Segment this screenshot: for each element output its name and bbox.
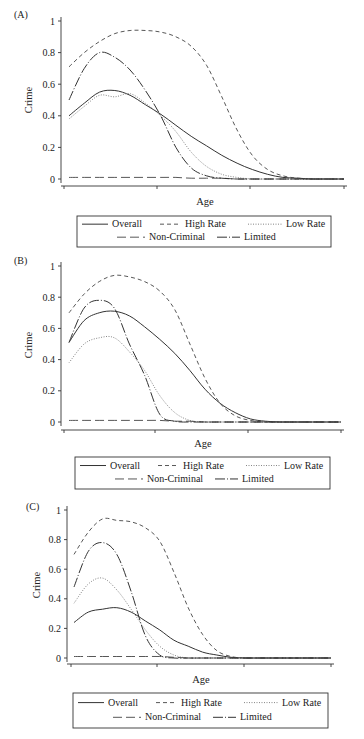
panel-label: (C) [26, 501, 39, 513]
legend-label: Limited [240, 711, 272, 722]
series-low-rate-line [74, 578, 331, 658]
y-tick-label: 0.8 [49, 534, 62, 545]
legend-label: Overall [108, 697, 138, 708]
legend: OverallHigh RateLow RateNon-CriminalLimi… [73, 693, 328, 728]
series-limited-line [74, 543, 331, 659]
legend-label: Non-Criminal [145, 711, 201, 722]
y-tick-label: 0.6 [49, 564, 62, 575]
y-axis-label: Crime [31, 572, 42, 599]
y-tick-label: 1 [56, 505, 61, 516]
y-axis: 00.20.40.60.81 [49, 505, 68, 664]
y-tick-label: 0 [56, 653, 61, 664]
plot-area: 00.20.40.60.81 [49, 505, 335, 668]
x-axis-label: Age [192, 674, 210, 685]
x-axis [67, 664, 334, 667]
series-overall-line [74, 608, 331, 658]
panel-c: (C) 00.20.40.60.81 Age Crime OverallHigh… [0, 0, 364, 739]
legend-label: High Rate [181, 697, 222, 708]
y-tick-label: 0.4 [49, 593, 62, 604]
panel-c-svg: (C) 00.20.40.60.81 Age Crime OverallHigh… [0, 0, 364, 739]
legend-label: Low Rate [282, 697, 322, 708]
series-high-rate-line [74, 518, 331, 658]
y-tick-label: 0.2 [49, 623, 62, 634]
